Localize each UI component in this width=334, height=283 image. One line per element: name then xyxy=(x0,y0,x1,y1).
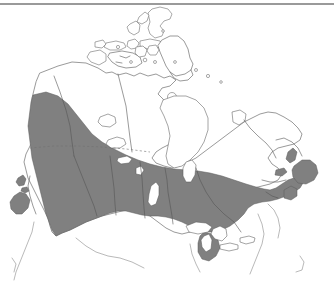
usa-northeast-coast xyxy=(268,204,280,238)
banks-island xyxy=(87,50,106,65)
baffin-island xyxy=(158,36,193,76)
melville-island xyxy=(104,41,126,50)
arctic-islet-6 xyxy=(174,61,177,64)
usa-interior-rivers xyxy=(76,238,144,268)
arctic-islet-2 xyxy=(143,58,147,62)
usa-coastal-detail xyxy=(296,256,304,272)
usa-inland-detail xyxy=(12,258,16,272)
canada-map[interactable] xyxy=(0,0,334,283)
map-figure xyxy=(0,0,334,283)
usa-east-coast xyxy=(250,214,264,274)
coastal-islet-shaded[interactable] xyxy=(21,187,29,193)
vancouver-island-shaded[interactable] xyxy=(10,192,30,214)
arctic-islet-8 xyxy=(206,74,209,77)
usa-west-coast xyxy=(14,222,34,280)
arctic-islet-5 xyxy=(162,30,165,33)
lake-erie xyxy=(220,243,238,251)
ellesmere-island-north xyxy=(137,12,149,24)
newfoundland-peninsula-shaded[interactable] xyxy=(286,148,297,163)
arctic-islet-3 xyxy=(130,61,133,64)
arctic-islet-4 xyxy=(154,61,157,64)
lake-ontario xyxy=(240,236,255,244)
axel-heiberg-island xyxy=(127,21,140,35)
arctic-islet-9 xyxy=(220,81,223,84)
arctic-islet-1 xyxy=(116,45,119,48)
arctic-islet-7 xyxy=(195,69,198,72)
ellesmere-island xyxy=(148,7,172,38)
haida-gwaii-shaded[interactable] xyxy=(16,175,26,186)
newfoundland-shaded[interactable] xyxy=(292,160,318,184)
somerset-island xyxy=(147,45,159,55)
